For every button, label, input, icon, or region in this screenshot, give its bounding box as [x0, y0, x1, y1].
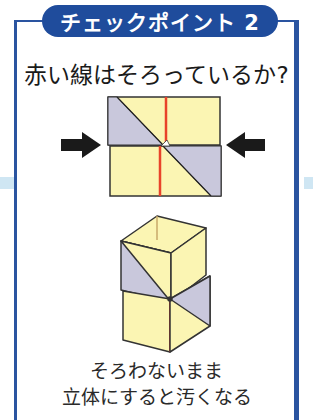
caption-line-1: そろわないまま — [0, 358, 313, 384]
flat-folded-squares — [108, 97, 221, 196]
assembled-cube-column — [121, 216, 210, 352]
left-arrow-icon — [61, 132, 101, 158]
right-arrow-icon — [226, 132, 265, 158]
caption-line-2: 立体にすると汚くなる — [0, 384, 313, 410]
